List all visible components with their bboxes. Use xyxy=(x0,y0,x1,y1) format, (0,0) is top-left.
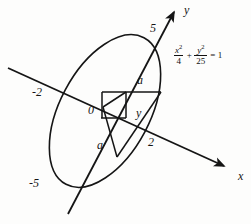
construction-right-slant xyxy=(117,92,161,157)
equation-term-2-numerator: y2 xyxy=(195,44,206,55)
ellipse-curve xyxy=(26,17,183,206)
origin-label: 0 xyxy=(88,104,94,116)
equation-term-2-denominator: 25 xyxy=(194,55,207,66)
ellipse-equation: x2 4 + y2 25 = 1 xyxy=(172,44,222,67)
equation-term-1-exponent: 2 xyxy=(179,43,182,50)
equation-right-hand-side: = 1 xyxy=(210,50,222,60)
y-axis-label: y xyxy=(184,4,189,16)
equation-operator: + xyxy=(187,50,192,60)
y-axis-line xyxy=(68,12,174,214)
segment-label-y: y xyxy=(136,107,141,119)
tick-label-x-positive: 2 xyxy=(148,136,154,148)
segment-label-a-lower: a xyxy=(97,139,103,151)
equation-term-1-denominator: 4 xyxy=(174,55,183,66)
construction-origin-link xyxy=(103,92,126,107)
tick-label-x-negative: -2 xyxy=(32,86,42,98)
tick-label-y-positive: 5 xyxy=(150,22,156,34)
equation-term-2: y2 25 xyxy=(194,44,207,67)
ellipse-figure: x y -2 2 5 -5 0 a a y x2 4 + y2 25 = 1 xyxy=(0,0,251,224)
x-axis-label: x xyxy=(238,170,243,182)
equation-term-2-exponent: 2 xyxy=(201,43,204,50)
equation-term-1-numerator: x2 xyxy=(173,44,184,55)
tick-label-y-negative: -5 xyxy=(29,177,39,189)
segment-label-a-upper: a xyxy=(137,74,143,86)
figure-canvas xyxy=(0,0,251,224)
equation-term-1: x2 4 xyxy=(173,44,184,67)
